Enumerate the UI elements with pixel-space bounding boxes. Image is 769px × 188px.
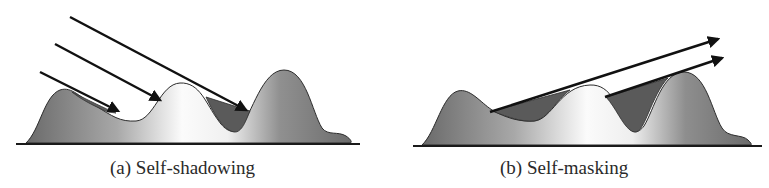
panel-self-masking [413,39,762,146]
panel-self-shadowing [16,17,360,144]
caption-self-masking: (b) Self-masking [500,157,628,179]
caption-self-shadowing: (a) Self-shadowing [110,157,255,179]
microsurface-b [422,72,751,145]
light-ray-arrow-3 [70,17,246,110]
